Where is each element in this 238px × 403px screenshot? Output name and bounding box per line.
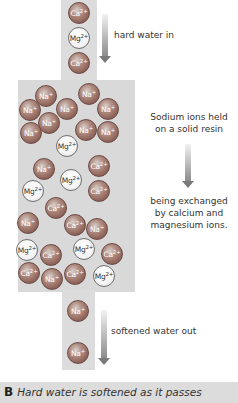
- ion-sodium: Na+: [67, 300, 89, 322]
- ion-magnesium: Mg2+: [68, 27, 90, 49]
- ion-sodium: Na+: [19, 99, 41, 121]
- ion-magnesium: Mg2+: [60, 169, 82, 191]
- resin-note: Sodium ions held on a solid resin: [140, 111, 238, 135]
- ion-sodium: Na+: [97, 98, 119, 120]
- hard-water-in-label: hard water in: [114, 29, 174, 41]
- exchange-note-line-3: magnesium ions.: [140, 219, 238, 231]
- ion-sodium: Na+: [33, 158, 55, 180]
- ion-magnesium: Mg2+: [73, 238, 95, 260]
- caption-letter: B: [4, 385, 13, 399]
- ion-sodium: Na+: [75, 119, 97, 141]
- ion-sodium: Na+: [97, 121, 119, 143]
- ion-calcium: Ca2+: [64, 263, 86, 285]
- caption-text: Hard water is softened as it passes: [17, 386, 202, 398]
- ion-magnesium: Mg2+: [93, 265, 115, 287]
- ion-calcium: Ca2+: [64, 214, 86, 236]
- figure-caption: BHard water is softened as it passes: [0, 382, 238, 403]
- softened-water-out-label: softened water out: [111, 325, 196, 337]
- ion-magnesium: Mg2+: [56, 135, 78, 157]
- ion-sodium: Na+: [78, 83, 100, 105]
- resin-note-line-1: Sodium ions held: [140, 111, 238, 123]
- ion-calcium: Ca2+: [68, 52, 90, 74]
- ion-sodium: Na+: [41, 268, 63, 290]
- ion-calcium: Ca2+: [45, 197, 67, 219]
- resin-note-line-2: on a solid resin: [140, 123, 238, 135]
- ion-sodium: Na+: [67, 342, 89, 364]
- ion-sodium: Na+: [56, 98, 78, 120]
- ion-sodium: Na+: [17, 212, 39, 234]
- exchange-note-line-1: being exchanged: [140, 195, 238, 207]
- ion-calcium: Ca2+: [18, 262, 40, 284]
- ion-calcium: Ca2+: [88, 155, 110, 177]
- down-arrow-icon: [185, 144, 191, 182]
- exchange-note: being exchanged by calcium and magnesium…: [140, 195, 238, 231]
- ion-calcium: Ca2+: [68, 2, 90, 24]
- down-arrow-icon: [102, 14, 108, 57]
- ion-magnesium: Mg2+: [16, 239, 38, 261]
- exchange-note-line-2: by calcium and: [140, 207, 238, 219]
- ion-sodium: Na+: [86, 218, 108, 240]
- ion-magnesium: Mg2+: [22, 180, 44, 202]
- ion-calcium: Ca2+: [101, 243, 123, 265]
- down-arrow-icon: [101, 310, 107, 359]
- ion-calcium: Ca2+: [88, 180, 110, 202]
- ion-calcium: Ca2+: [40, 244, 62, 266]
- ion-sodium: Na+: [20, 122, 42, 144]
